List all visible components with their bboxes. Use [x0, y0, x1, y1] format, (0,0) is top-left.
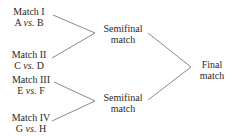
match-4-label: Match IV G vs. H	[11, 112, 51, 134]
match-2-label: Match II C vs. D	[11, 49, 47, 71]
match-2-teams: C vs. D	[11, 60, 47, 71]
final-label: Final match	[199, 59, 225, 81]
semifinal-1-label: Semifinal match	[103, 23, 143, 45]
connector-semi2-final	[148, 67, 191, 100]
connector-match4-semi2	[52, 101, 95, 121]
connector-match2-semi1	[52, 33, 95, 58]
match-1-teams: A vs. B	[11, 17, 47, 28]
match-1-title: Match I	[11, 6, 47, 17]
match-3-teams: E vs. F	[11, 85, 51, 96]
connector-match3-semi2	[54, 82, 95, 101]
match-4-title: Match IV	[11, 112, 51, 123]
semifinal-2-label: Semifinal match	[103, 92, 143, 114]
match-3-title: Match III	[11, 74, 51, 85]
connector-match1-semi1	[53, 15, 95, 33]
match-2-title: Match II	[11, 49, 47, 60]
match-1-label: Match I A vs. B	[11, 6, 47, 28]
match-4-teams: G vs. H	[11, 123, 51, 134]
match-3-label: Match III E vs. F	[11, 74, 51, 96]
connector-semi1-final	[148, 33, 191, 67]
